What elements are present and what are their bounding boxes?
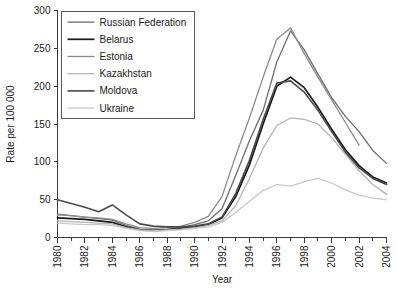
x-tick-label: 1994 <box>244 245 255 268</box>
x-tick-label: 1982 <box>79 245 90 268</box>
x-tick-label: 1986 <box>134 245 145 268</box>
x-tick-label: 2004 <box>381 245 392 268</box>
legend-label: Belarus <box>100 34 134 45</box>
x-tick-label: 1984 <box>107 245 118 268</box>
x-tick-label: 1988 <box>162 245 173 268</box>
legend-label: Estonia <box>100 51 134 62</box>
x-tick-label: 1980 <box>52 245 63 268</box>
x-tick-group: 1980198219841986198819901992199419961998… <box>52 238 392 268</box>
line-chart: 050100150200250300 Rate per 100 000 1980… <box>0 0 397 288</box>
y-tick-group: 050100150200250300 <box>34 5 58 243</box>
x-tick-label: 2002 <box>354 245 365 268</box>
legend-label: Ukraine <box>100 103 135 114</box>
y-tick-label: 200 <box>34 81 51 92</box>
chart-legend: Russian FederationBelarusEstoniaKazakhst… <box>62 12 195 119</box>
x-axis-group: 1980198219841986198819901992199419961998… <box>52 238 392 286</box>
y-tick-label: 250 <box>34 43 51 54</box>
y-axis-group: 050100150200250300 Rate per 100 000 <box>5 5 58 243</box>
legend-label: Kazakhstan <box>100 68 152 79</box>
chart-container: 050100150200250300 Rate per 100 000 1980… <box>0 0 397 288</box>
y-axis-title: Rate per 100 000 <box>5 85 16 163</box>
legend-label: Moldova <box>100 85 138 96</box>
x-tick-label: 1990 <box>189 245 200 268</box>
series-line <box>58 118 387 231</box>
y-tick-label: 0 <box>45 232 51 243</box>
y-tick-label: 150 <box>34 119 51 130</box>
legend-label: Russian Federation <box>100 17 187 28</box>
x-tick-label: 2000 <box>326 245 337 268</box>
x-axis-title: Year <box>212 274 233 285</box>
y-tick-label: 100 <box>34 156 51 167</box>
x-tick-label: 1998 <box>299 245 310 268</box>
y-tick-label: 50 <box>39 194 51 205</box>
x-tick-label: 1992 <box>217 245 228 268</box>
y-tick-label: 300 <box>34 5 51 16</box>
x-tick-label: 1996 <box>271 245 282 268</box>
